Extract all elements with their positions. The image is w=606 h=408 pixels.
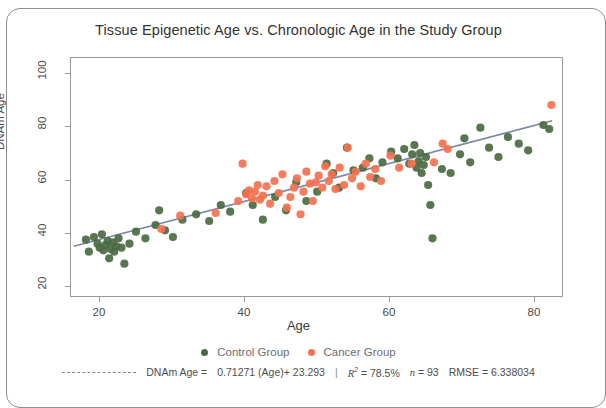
x-tick-label: 80 [518, 306, 550, 318]
data-point [254, 181, 262, 189]
data-point [418, 169, 426, 177]
data-point [328, 170, 336, 178]
y-tick-mark [65, 73, 70, 74]
series-control [82, 121, 553, 268]
data-point [331, 185, 339, 193]
data-point [192, 210, 200, 218]
r-squared-value: = 78.5% [361, 367, 400, 379]
legend: Control Group Cancer Group [0, 346, 597, 358]
data-point [283, 204, 291, 212]
data-point [262, 182, 270, 190]
data-point [296, 210, 304, 218]
data-point [275, 189, 283, 197]
x-tick-label: 20 [83, 306, 115, 318]
data-point [309, 197, 317, 205]
data-point [290, 184, 298, 192]
data-point [378, 158, 386, 166]
data-point [98, 230, 106, 238]
data-point [466, 158, 474, 166]
plot-area [70, 57, 563, 297]
data-point [176, 212, 184, 220]
series-cancer [157, 101, 555, 233]
y-axis-title: DNAm Age [0, 93, 6, 150]
data-point [205, 217, 213, 225]
data-point [270, 177, 278, 185]
data-point [321, 162, 329, 170]
data-point [238, 160, 246, 168]
legend-label-control: Control Group [217, 346, 289, 358]
r-squared-stat: R2 = 78.5% [348, 366, 400, 379]
data-point [344, 144, 352, 152]
data-point [286, 193, 294, 201]
data-point [117, 244, 125, 252]
data-point [460, 134, 468, 142]
data-point [357, 182, 365, 190]
sample-size-value: = 93 [418, 366, 439, 378]
data-point [266, 200, 274, 208]
data-point [485, 144, 493, 152]
data-point [278, 170, 286, 178]
y-tick-mark [65, 286, 70, 287]
data-point [259, 216, 267, 224]
data-point [362, 160, 370, 168]
data-point [494, 153, 502, 161]
legend-item-cancer[interactable]: Cancer Group [308, 346, 396, 358]
x-tick-mark [244, 297, 245, 302]
x-tick-mark [534, 297, 535, 302]
data-point [157, 225, 165, 233]
y-tick-label: 100 [36, 54, 48, 86]
rmse-stat: RMSE = 6.338034 [449, 366, 535, 378]
data-point [259, 192, 267, 200]
y-tick-label: 60 [36, 161, 48, 193]
data-point [524, 146, 532, 154]
data-point [428, 234, 436, 242]
data-point [407, 160, 415, 168]
data-point [82, 236, 90, 244]
x-axis-title: Age [0, 318, 597, 333]
data-point [424, 181, 432, 189]
data-point [141, 234, 149, 242]
scatter-plot-svg [70, 57, 563, 297]
x-tick-mark [389, 297, 390, 302]
legend-label-cancer: Cancer Group [324, 346, 396, 358]
data-point [426, 201, 434, 209]
data-point [234, 197, 242, 205]
equation-separator: | [335, 366, 338, 378]
data-point [430, 158, 438, 166]
data-point [410, 141, 418, 149]
x-tick-label: 60 [373, 306, 405, 318]
data-point [456, 150, 464, 158]
data-point [226, 208, 234, 216]
y-tick-label: 20 [36, 267, 48, 299]
data-point [85, 248, 93, 256]
equation-body: 0.71271 (Age)+ 23.293 [217, 366, 325, 378]
regression-annotation: DNAm Age = 0.71271 (Age)+ 23.293 | R2 = … [0, 366, 597, 379]
data-point [420, 161, 428, 169]
data-point [386, 152, 394, 160]
rmse-label: RMSE = [449, 366, 488, 378]
data-point [132, 228, 140, 236]
data-point [212, 209, 220, 217]
rmse-value: 6.338034 [491, 366, 535, 378]
data-point [377, 177, 385, 185]
data-point [155, 206, 163, 214]
page-title: Tissue Epigenetic Age vs. Chronologic Ag… [0, 22, 597, 38]
data-point [120, 260, 128, 268]
data-point [400, 145, 408, 153]
equation-prefix: DNAm Age = [146, 366, 207, 378]
data-point [336, 164, 344, 172]
data-point [105, 254, 113, 262]
y-tick-mark [65, 180, 70, 181]
x-tick-label: 40 [228, 306, 260, 318]
data-point [444, 145, 452, 153]
data-point [299, 188, 307, 196]
data-point [366, 173, 374, 181]
data-point [318, 184, 326, 192]
data-point [371, 165, 379, 173]
data-point [515, 140, 523, 148]
data-point [125, 240, 133, 248]
sample-size-stat: n = 93 [410, 366, 439, 378]
data-point [340, 181, 348, 189]
legend-item-control[interactable]: Control Group [201, 346, 289, 358]
